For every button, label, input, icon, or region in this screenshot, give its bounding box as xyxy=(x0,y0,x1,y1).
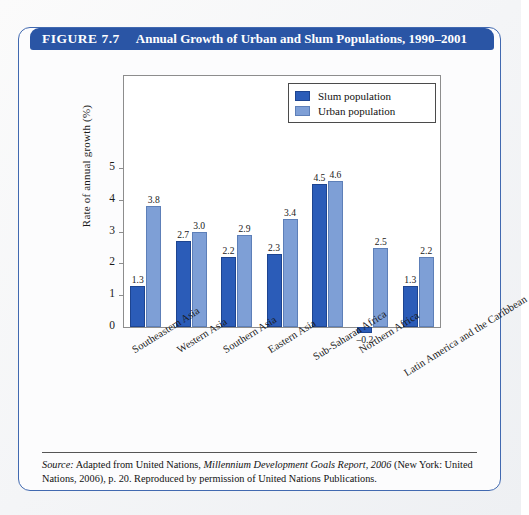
y-tick-mark-1 xyxy=(119,295,123,296)
bar-value-label-urban-3: 3.4 xyxy=(277,207,303,218)
y-tick-label-3: 3 xyxy=(87,224,115,236)
bar-urban-2 xyxy=(237,235,252,327)
bar-value-label-urban-0: 3.8 xyxy=(141,194,167,205)
source-note: Source: Adapted from United Nations, Mil… xyxy=(42,458,482,485)
bar-slum-0 xyxy=(130,286,145,327)
y-tick-label-1: 1 xyxy=(87,287,115,299)
legend-item-slum: Slum population xyxy=(295,88,429,103)
legend-label-urban: Urban population xyxy=(318,105,395,117)
legend-swatch-slum-icon xyxy=(295,91,310,101)
source-publication-title: Millennium Development Goals Report, 200… xyxy=(203,459,391,470)
bar-value-label-urban-1: 3.0 xyxy=(186,220,212,231)
source-text-part1: Adapted from United Nations, xyxy=(74,459,204,470)
y-tick-mark-2 xyxy=(119,263,123,264)
bar-urban-0 xyxy=(146,206,161,327)
legend-label-slum: Slum population xyxy=(318,90,391,102)
y-tick-label-0: 0 xyxy=(87,319,115,331)
bar-value-label-urban-6: 2.2 xyxy=(413,245,439,256)
figure-number-label: FIGURE 7.7 xyxy=(42,31,120,47)
y-tick-label-4: 4 xyxy=(87,192,115,204)
bar-value-label-urban-2: 2.9 xyxy=(232,223,258,234)
figure-title-text: Annual Growth of Urban and Slum Populati… xyxy=(136,31,467,47)
source-prefix: Source: xyxy=(42,459,74,470)
chart-legend: Slum population Urban population xyxy=(288,83,436,123)
source-divider xyxy=(42,452,477,453)
bar-urban-3 xyxy=(283,219,298,327)
legend-item-urban: Urban population xyxy=(295,103,429,118)
y-tick-label-2: 2 xyxy=(87,255,115,267)
bar-value-label-urban-4: 4.6 xyxy=(322,169,348,180)
y-tick-label-5: 5 xyxy=(87,160,115,172)
figure-title-banner: FIGURE 7.7 Annual Growth of Urban and Sl… xyxy=(30,28,494,50)
bar-value-label-urban-5: 2.5 xyxy=(368,236,394,247)
y-tick-mark-5 xyxy=(119,168,123,169)
bar-slum-4 xyxy=(312,184,327,327)
y-tick-mark-3 xyxy=(119,232,123,233)
y-tick-mark-4 xyxy=(119,200,123,201)
legend-swatch-urban-icon xyxy=(295,106,310,116)
bar-urban-4 xyxy=(328,181,343,327)
bar-urban-6 xyxy=(419,257,434,327)
